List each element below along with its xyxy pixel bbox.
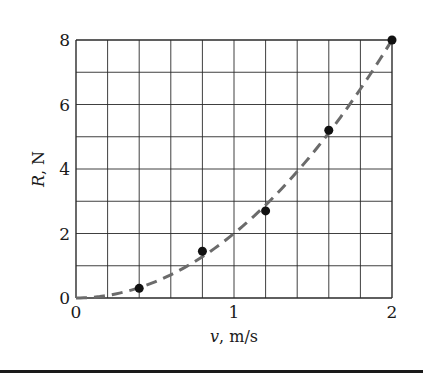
y-axis-label-unit: , N <box>29 151 48 175</box>
chart: 02468 012 R, N v, m/s <box>0 0 423 375</box>
y-tick-label: 2 <box>59 224 70 244</box>
y-axis-label: R, N <box>29 151 48 188</box>
data-point <box>198 247 207 256</box>
data-point <box>261 206 270 215</box>
y-tick-label: 0 <box>59 288 70 308</box>
grid <box>76 40 392 298</box>
x-tick-labels: 012 <box>71 302 398 322</box>
bottom-rule <box>0 370 423 373</box>
y-tick-label: 4 <box>59 159 70 179</box>
chart-canvas: 02468 012 R, N v, m/s <box>0 0 423 375</box>
y-tick-label: 8 <box>59 30 70 50</box>
data-point <box>135 284 144 293</box>
x-axis-label-unit: , m/s <box>219 327 258 346</box>
x-tick-label: 0 <box>71 302 82 322</box>
x-tick-label: 1 <box>229 302 240 322</box>
data-point <box>388 36 397 45</box>
y-tick-label: 6 <box>59 95 70 115</box>
x-axis-label-var: v <box>210 327 219 346</box>
y-axis-label-var: R <box>29 175 48 188</box>
data-point <box>324 126 333 135</box>
x-tick-label: 2 <box>387 302 398 322</box>
x-axis-label: v, m/s <box>210 327 258 346</box>
y-tick-labels: 02468 <box>59 30 70 308</box>
